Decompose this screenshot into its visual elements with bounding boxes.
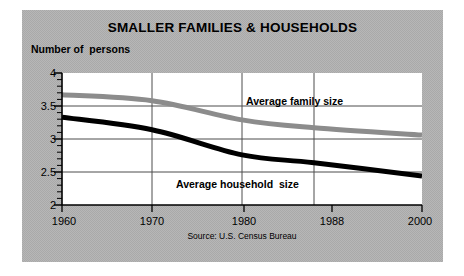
x-tick-label-1988: 1988 [320, 215, 344, 227]
series-label-average-family-size: Average family size [246, 95, 343, 107]
y-tick-label-4: 4 [26, 67, 56, 79]
x-tick-label-1960: 1960 [52, 215, 76, 227]
y-axis-title: Number of persons [31, 43, 130, 55]
y-tick-label-2.5: 2.5 [26, 166, 56, 178]
series-label-average-household-size: Average household size [176, 178, 299, 190]
source-note: Source: U.S. Census Bureau [62, 231, 422, 241]
x-tick-label-1970: 1970 [140, 215, 164, 227]
chart-figure: SMALLER FAMILIES & HOUSEHOLDS Number of … [0, 0, 464, 276]
y-tick-label-3.5: 3.5 [26, 100, 56, 112]
x-tick-label-2000: 2000 [408, 215, 432, 227]
chart-title: SMALLER FAMILIES & HOUSEHOLDS [22, 20, 443, 35]
x-tick-label-1980: 1980 [232, 215, 256, 227]
y-tick-label-2: 2 [26, 199, 56, 211]
y-tick-label-3: 3 [26, 133, 56, 145]
